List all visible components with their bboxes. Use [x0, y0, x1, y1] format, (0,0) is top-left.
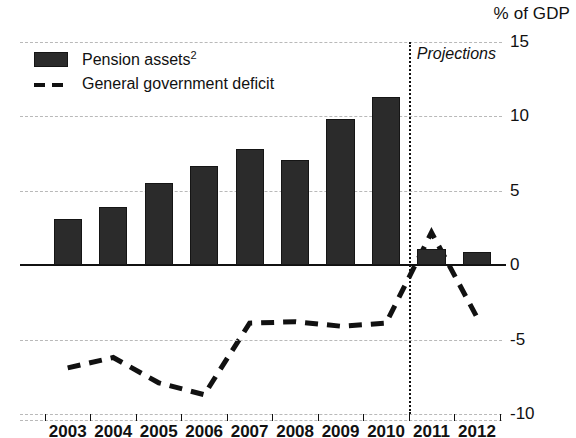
x-axis-tick [90, 414, 91, 421]
y-axis-tick-label: 5 [510, 181, 519, 201]
bar-2007 [236, 149, 264, 265]
bar-2012 [463, 252, 491, 265]
x-axis-label-2004: 2004 [94, 422, 132, 438]
x-axis-tick [181, 414, 182, 421]
bar-2011 [417, 249, 445, 265]
x-axis-label-2009: 2009 [322, 422, 360, 438]
x-axis: 2003200420052006200720082009201020112012 [0, 414, 576, 438]
legend-label-general-government-deficit: General government deficit [82, 75, 274, 93]
y-axis-tick-label: 10 [510, 106, 529, 126]
x-axis-baseline [20, 420, 502, 421]
gridline [20, 116, 502, 117]
x-axis-tick [45, 414, 46, 421]
chart-legend: Pension assets2 General government defic… [34, 48, 274, 98]
gridline [20, 340, 502, 341]
x-axis-tick [500, 414, 501, 421]
legend-label-pension-assets: Pension assets2 [82, 49, 197, 69]
legend-footnote-marker: 2 [191, 49, 197, 61]
chart-root: % of GDP Projections 151050-5-10 2003200… [0, 0, 576, 438]
bar-2006 [190, 166, 218, 266]
x-axis-tick [318, 414, 319, 421]
x-axis-label-2010: 2010 [367, 422, 405, 438]
x-axis-tick [363, 414, 364, 421]
deficit-dashed-line [68, 233, 477, 395]
x-axis-label-2006: 2006 [185, 422, 223, 438]
legend-bar-swatch-icon [34, 52, 68, 67]
legend-item-pension-assets: Pension assets2 [34, 48, 274, 70]
bar-2003 [54, 219, 82, 265]
x-axis-tick [136, 414, 137, 421]
y-axis-tick-label: 0 [510, 255, 519, 275]
x-axis-label-2011: 2011 [413, 422, 450, 438]
x-axis-label-2005: 2005 [140, 422, 178, 438]
bar-2009 [326, 119, 354, 265]
x-axis-tick [272, 414, 273, 421]
y-axis-tick-label: 15 [510, 32, 529, 52]
x-axis-tick [227, 414, 228, 421]
legend-label-pension-assets-text: Pension assets [82, 51, 191, 68]
x-axis-tick [454, 414, 455, 421]
x-axis-label-2012: 2012 [458, 422, 496, 438]
bar-2010 [372, 97, 400, 265]
projections-label: Projections [417, 45, 496, 63]
projections-divider-line [409, 42, 411, 414]
x-axis-tick [409, 414, 410, 421]
x-axis-label-2007: 2007 [231, 422, 269, 438]
y-axis-tick-label: -5 [510, 330, 525, 350]
legend-dashed-line-icon [34, 77, 68, 92]
x-axis-label-2008: 2008 [276, 422, 314, 438]
x-axis-label-2003: 2003 [49, 422, 87, 438]
y-axis-unit-caption: % of GDP [494, 4, 570, 24]
gridline [20, 42, 502, 43]
bar-2004 [99, 207, 127, 265]
legend-item-general-government-deficit: General government deficit [34, 73, 274, 95]
bar-2008 [281, 160, 309, 266]
bar-2005 [145, 183, 173, 265]
